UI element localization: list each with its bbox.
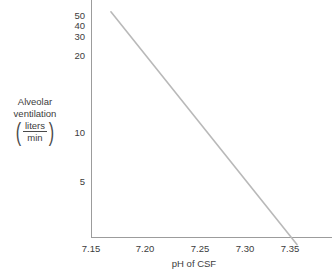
x-tick-label: 7.15 — [82, 244, 101, 254]
x-tick-label: 7.30 — [236, 244, 255, 254]
x-axis-label-text: pH of CSF — [172, 258, 216, 269]
x-tick-label: 7.35 — [281, 244, 300, 254]
chart-figure: Alveolar ventilation ( liters min ) 5040… — [0, 0, 332, 275]
x-axis-label: pH of CSF — [0, 258, 332, 269]
x-tick-label: 7.20 — [136, 244, 155, 254]
x-tick-label: 7.25 — [191, 244, 210, 254]
x-axis-ticks: 7.157.207.257.307.35 — [0, 0, 332, 275]
